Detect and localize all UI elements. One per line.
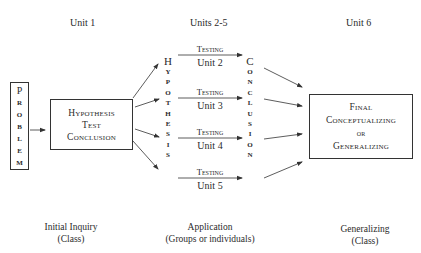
conclusion-letter: S xyxy=(248,119,252,129)
hypothesis-box-line: Test xyxy=(82,119,101,131)
footer-generalizing: Generalizing (Class) xyxy=(330,223,400,247)
hypothesis-letter: O xyxy=(165,88,170,98)
problem-letter: P xyxy=(17,85,23,97)
problem-letter: E xyxy=(17,145,22,157)
final-box-line: Final xyxy=(349,101,372,114)
final-box-line: or xyxy=(357,127,366,140)
column-header-units-2-5: Units 2-5 xyxy=(190,17,228,28)
hypothesis-letter: H xyxy=(164,55,172,67)
problem-box: P R O B L E M xyxy=(10,82,29,170)
conclusion-letter: C xyxy=(246,55,253,67)
inquiry-process-diagram: Unit 1 Units 2-5 Unit 6 P R O B L E M Hy… xyxy=(0,0,421,253)
footer-title: Application xyxy=(150,221,270,233)
footer-application: Application (Groups or individuals) xyxy=(150,221,270,245)
problem-letter: B xyxy=(17,121,22,133)
problem-letter: O xyxy=(17,109,22,121)
unit-3-label: Unit 3 xyxy=(180,100,240,111)
final-box-line: Generalizing xyxy=(333,140,389,153)
unit-4-label: Unit 4 xyxy=(180,140,240,151)
hypothesis-letter: S xyxy=(166,150,170,160)
problem-letter: R xyxy=(17,97,22,109)
hypothesis-letter: E xyxy=(166,119,171,129)
footer-subtitle: (Groups or individuals) xyxy=(150,233,270,245)
unit-5-label: Unit 5 xyxy=(180,180,240,191)
conclusion-vertical-label: C O N C L U S I O N xyxy=(244,55,256,161)
testing-label-unit-5: Testing xyxy=(180,167,240,177)
hypothesis-letter: Y xyxy=(165,67,170,77)
footer-subtitle: (Class) xyxy=(330,235,400,247)
hypothesis-vertical-label: H Y P O T H E S I S xyxy=(162,55,174,161)
testing-label-unit-2: Testing xyxy=(180,44,240,54)
unit-2-label: Unit 2 xyxy=(180,57,240,68)
hypothesis-test-conclusion-box: Hypothesis Test Conclusion xyxy=(50,99,133,150)
final-conceptualizing-box: Final Conceptualizing or Generalizing xyxy=(309,94,413,159)
testing-label-unit-4: Testing xyxy=(180,127,240,137)
column-header-unit-6: Unit 6 xyxy=(346,17,371,28)
footer-title: Generalizing xyxy=(330,223,400,235)
conclusion-letter: C xyxy=(247,88,252,98)
hypothesis-letter: T xyxy=(166,98,171,108)
conclusion-letter: L xyxy=(248,98,253,108)
final-box-text: Final Conceptualizing or Generalizing xyxy=(310,95,412,158)
conclusion-letter: O xyxy=(247,140,252,150)
conclusion-letter: N xyxy=(247,77,252,87)
final-box-line: Conceptualizing xyxy=(326,114,396,127)
conclusion-letter: I xyxy=(249,129,252,139)
problem-letters: P R O B L E M xyxy=(11,85,28,169)
hypothesis-box-line: Conclusion xyxy=(67,131,116,143)
conclusion-letter: U xyxy=(247,109,252,119)
hypothesis-box-text: Hypothesis Test Conclusion xyxy=(51,100,132,149)
hypothesis-letter: S xyxy=(166,129,170,139)
hypothesis-letter: P xyxy=(166,77,170,87)
hypothesis-letter: I xyxy=(167,140,170,150)
footer-title: Initial Inquiry xyxy=(35,221,107,233)
problem-letter: M xyxy=(16,157,23,169)
footer-initial-inquiry: Initial Inquiry (Class) xyxy=(35,221,107,245)
testing-label-unit-3: Testing xyxy=(180,87,240,97)
footer-subtitle: (Class) xyxy=(35,233,107,245)
column-header-unit-1: Unit 1 xyxy=(70,17,95,28)
hypothesis-letter: H xyxy=(165,109,170,119)
problem-letter: L xyxy=(17,133,22,145)
conclusion-letter: O xyxy=(247,67,252,77)
hypothesis-box-line: Hypothesis xyxy=(68,107,115,119)
conclusion-letter: N xyxy=(247,150,252,160)
